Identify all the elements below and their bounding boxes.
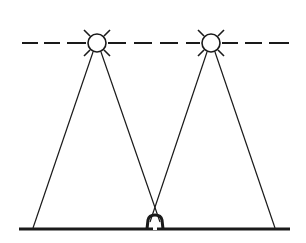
obstacle-gap (153, 221, 157, 230)
light-cones (33, 52, 275, 228)
right-lamp-icon (198, 30, 224, 56)
left-lamp-icon (84, 30, 110, 56)
lighting-diagram (0, 0, 306, 243)
